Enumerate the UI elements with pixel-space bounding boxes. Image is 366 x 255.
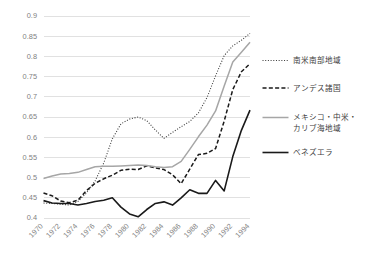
y-tick-label: 0.55	[23, 153, 37, 162]
line-chart: 0.40.450.50.550.60.650.70.750.80.850.9 1…	[0, 0, 366, 255]
y-tick-label: 0.85	[23, 32, 37, 41]
series-line-1	[44, 33, 251, 205]
series-lines	[44, 33, 251, 216]
legend-label-2[interactable]: アンデス諸国	[293, 83, 341, 93]
x-tick-label: 1972	[44, 222, 62, 240]
chart-canvas: 0.40.450.50.550.60.650.70.750.80.850.9 1…	[0, 0, 366, 255]
y-tick-label: 0.45	[23, 193, 37, 202]
y-tick-label: 0.65	[23, 112, 37, 121]
y-tick-label: 0.75	[23, 72, 37, 81]
x-tick-label: 1978	[96, 222, 114, 240]
legend-label-3-line2[interactable]: カリブ海地域	[293, 123, 341, 133]
x-tick-label: 1994	[233, 222, 251, 240]
legend-label-3[interactable]: メキシコ・中米・	[293, 112, 357, 122]
x-tick-label: 1980	[113, 222, 131, 240]
x-tick-label: 1988	[182, 222, 200, 240]
y-tick-label: 0.4	[27, 213, 37, 222]
x-tick-label: 1990	[199, 222, 217, 240]
legend-label-4[interactable]: ベネズエラ	[293, 147, 333, 157]
chart-legend: 南米南部地域アンデス諸国メキシコ・中米・カリブ海地域ベネズエラ	[263, 55, 358, 157]
y-tick-label: 0.7	[27, 92, 37, 101]
x-tick-label: 1986	[165, 222, 183, 240]
x-tick-label: 1992	[216, 222, 234, 240]
x-tick-label: 1976	[79, 222, 97, 240]
y-tick-label: 0.9	[27, 11, 37, 20]
x-tick-label: 1984	[147, 222, 165, 240]
x-axis-tick-labels: 1970197219741976197819801982198419861988…	[27, 222, 251, 240]
y-axis-tick-labels: 0.40.450.50.550.60.650.70.750.80.850.9	[23, 11, 37, 222]
x-tick-label: 1982	[130, 222, 148, 240]
gridlines	[44, 16, 251, 218]
series-line-3	[44, 42, 251, 178]
legend-label-1[interactable]: 南米南部地域	[293, 55, 341, 65]
series-line-2	[44, 64, 251, 203]
y-tick-label: 0.8	[27, 52, 37, 61]
x-tick-label: 1974	[61, 222, 79, 240]
x-tick-label: 1970	[27, 222, 45, 240]
y-tick-label: 0.6	[27, 133, 37, 142]
y-tick-label: 0.5	[27, 173, 37, 182]
